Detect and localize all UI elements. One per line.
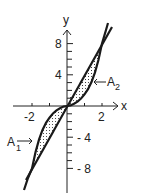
region-a1-callout: A 1 xyxy=(7,135,32,153)
svg-text:1: 1 xyxy=(16,143,21,153)
y-axis-label: y xyxy=(63,13,69,27)
line-curve xyxy=(26,27,112,180)
svg-text:A: A xyxy=(107,75,115,89)
svg-text:A: A xyxy=(7,135,15,149)
x-tick-label-2: 2 xyxy=(98,110,105,124)
svg-text:2: 2 xyxy=(115,82,120,92)
area-between-curves-diagram: y x 8 4 -2 2 - 4 - 8 A 2 A 1 xyxy=(0,0,143,196)
region-a2-callout: A 2 xyxy=(94,75,120,92)
y-tick-label-neg8: - 8 xyxy=(77,162,91,176)
y-tick-label-neg4: - 4 xyxy=(77,131,91,145)
x-tick-label-neg2: -2 xyxy=(24,110,35,124)
x-axis-label: x xyxy=(121,99,127,113)
y-tick-label-8: 8 xyxy=(55,37,62,51)
y-tick-label-4: 4 xyxy=(55,68,62,82)
